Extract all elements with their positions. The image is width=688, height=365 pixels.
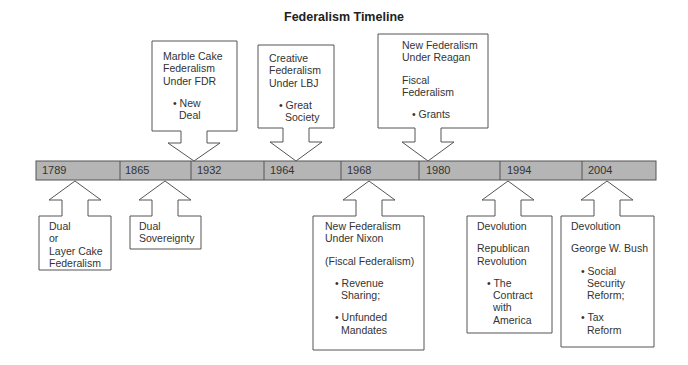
bullet-icon: • [412, 108, 419, 120]
bullet-item: • The Contract with America [487, 277, 533, 326]
bullet-icon: • [581, 265, 588, 277]
text-line: Sovereignty [139, 232, 194, 244]
year-label: 1789 [42, 164, 66, 176]
year-label: 1968 [347, 164, 371, 176]
callout-reagan-text: New Federalism Under Reagan Fiscal Feder… [402, 39, 478, 120]
text-line: Marble Cake [163, 50, 223, 62]
bullet-item: • Revenue Sharing; [335, 277, 414, 302]
text-line: Federalism [402, 86, 478, 98]
text-line: Dual [49, 220, 103, 232]
text-line: Federalism [163, 62, 223, 74]
bullet-item: • Unfunded Mandates [335, 311, 414, 336]
text-line: Republican [477, 242, 533, 254]
bullet-icon: • [279, 99, 286, 111]
text-line: Devolution [571, 220, 648, 232]
bullet-item: • Great Society [279, 99, 321, 124]
year-label: 1865 [125, 164, 149, 176]
text-line: George W. Bush [571, 242, 648, 254]
text-line: Fiscal [402, 74, 478, 86]
text-line: Under LBJ [269, 77, 321, 89]
bullet-item: • New Deal [173, 97, 223, 122]
text-line: or [49, 232, 103, 244]
text-line: (Fiscal Federalism) [325, 255, 414, 267]
year-label: 1964 [270, 164, 294, 176]
year-label: 1994 [507, 164, 531, 176]
text-line: Federalism [269, 64, 321, 76]
bullet-item: • Social Security Reform; [581, 265, 648, 302]
text-line: Layer Cake [49, 245, 103, 257]
callout-bush-text: Devolution George W. Bush • Social Secur… [571, 220, 648, 336]
text-line: Under Nixon [325, 232, 414, 244]
text-line: Dual [139, 220, 194, 232]
callout-nixon-text: New Federalism Under Nixon (Fiscal Feder… [325, 220, 414, 336]
text-line: Revolution [477, 255, 533, 267]
text-line: New Federalism [402, 39, 478, 51]
callout-lbj-text: Creative Federalism Under LBJ • Great So… [269, 52, 321, 123]
bullet-icon: • [335, 311, 342, 323]
callout-dual-text: Dual or Layer Cake Federalism [49, 220, 103, 269]
text-line: Creative [269, 52, 321, 64]
callout-dual-sovereignty-text: Dual Sovereignty [139, 220, 194, 245]
callout-fdr-text: Marble Cake Federalism Under FDR • New D… [163, 50, 223, 121]
bullet-item: • Grants [412, 108, 478, 120]
callout-1994-text: Devolution Republican Revolution • The C… [477, 220, 533, 326]
text-line: Devolution [477, 220, 533, 232]
bullet-icon: • [335, 277, 342, 289]
text-line: Under Reagan [402, 51, 478, 63]
year-label: 2004 [588, 164, 612, 176]
text-line: Federalism [49, 257, 103, 269]
bullet-icon: • [173, 97, 180, 109]
year-label: 1932 [197, 164, 221, 176]
text-line: Under FDR [163, 75, 223, 87]
bullet-item: • Tax Reform [581, 311, 648, 336]
year-label: 1980 [426, 164, 450, 176]
text-line: New Federalism [325, 220, 414, 232]
